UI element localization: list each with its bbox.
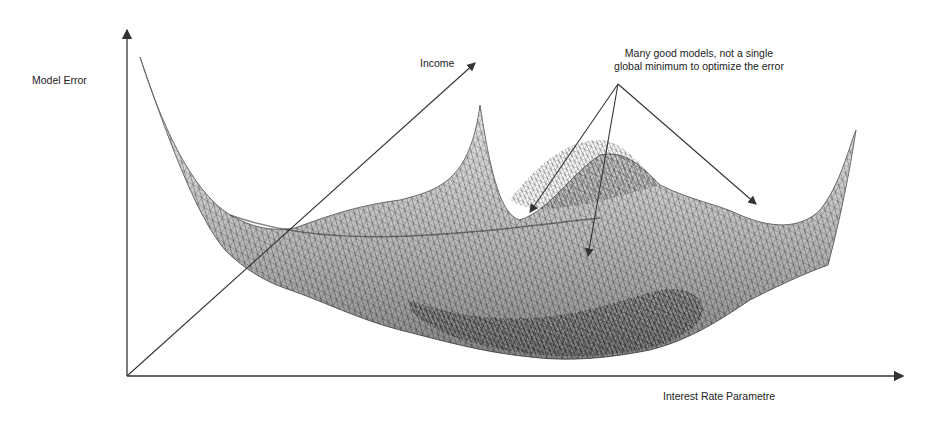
annotation-line-1: Many good models, not a single (604, 47, 794, 60)
income-axis-label: Income (420, 57, 454, 69)
x-axis-label: Interest Rate Parametre (663, 390, 775, 402)
diagram-canvas: Model Error Income Interest Rate Paramet… (0, 0, 943, 422)
error-surface-diagram (0, 0, 943, 422)
y-axis-label: Model Error (32, 74, 87, 86)
annotation-line-2: global minimum to optimize the error (604, 60, 794, 73)
annotation-text: Many good models, not a single global mi… (604, 47, 794, 73)
wireframe-surface (140, 57, 856, 359)
